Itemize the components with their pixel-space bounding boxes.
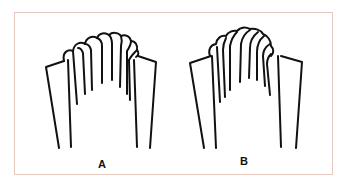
- fold-diagram: [0, 0, 352, 189]
- panel-label-b: B: [240, 155, 248, 167]
- panel-a-drawing: [46, 33, 156, 148]
- panel-b-drawing: [190, 28, 302, 148]
- panel-label-a: A: [98, 158, 106, 170]
